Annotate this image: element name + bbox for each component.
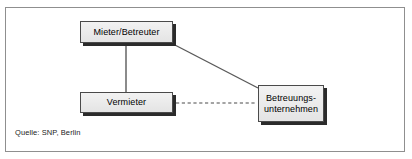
node-mieter-betreuter-label: Mieter/Betreuter [90, 27, 162, 38]
node-mieter-betreuter[interactable]: Mieter/Betreuter [80, 21, 173, 43]
edge-mieter-betreuungsunternehmen [173, 44, 258, 88]
source-caption: Quelle: SNP, Berlin [15, 128, 81, 138]
node-betreuungsunternehmen[interactable]: Betreuungs- unternehmen [258, 85, 324, 122]
node-betreuungsunternehmen-label: Betreuungs- unternehmen [261, 93, 321, 115]
node-vermieter[interactable]: Vermieter [80, 92, 173, 113]
node-vermieter-label: Vermieter [104, 97, 149, 108]
diagram-figure: Mieter/Betreuter Vermieter Betreuungs- u… [0, 0, 412, 159]
